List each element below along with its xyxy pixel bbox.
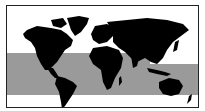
world-map	[7, 6, 199, 108]
arctic-islands	[51, 18, 67, 28]
map-frame	[6, 5, 199, 108]
japan	[173, 40, 179, 52]
greenland	[67, 16, 89, 36]
new-zealand	[187, 94, 192, 104]
